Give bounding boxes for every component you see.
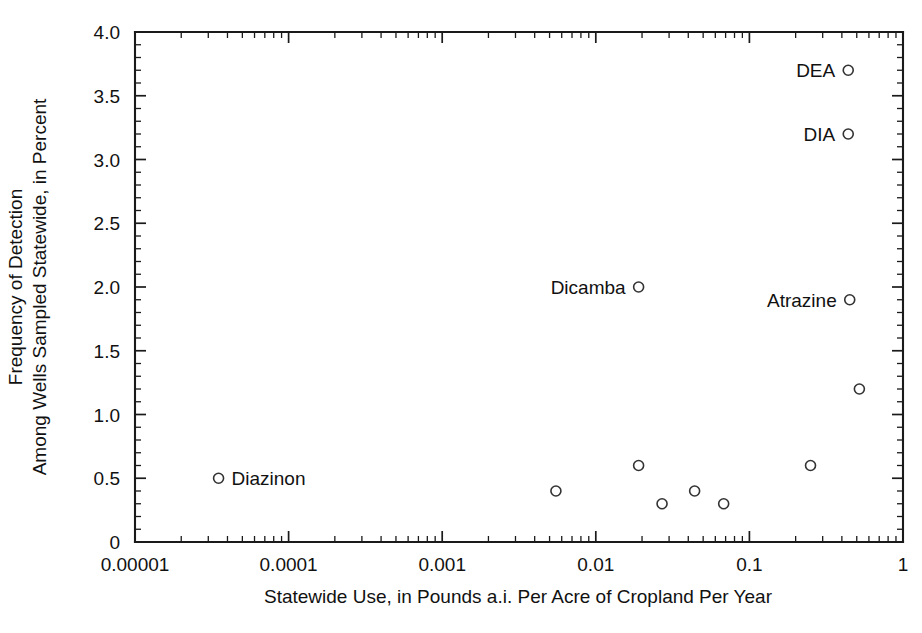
plot-canvas: 0.000010.00010.0010.010.11 00.51.01.52.0…: [0, 0, 922, 633]
data-point-label: Dicamba: [551, 277, 626, 298]
data-point-marker: [854, 384, 864, 394]
y-tick-label: 2.0: [94, 277, 120, 298]
y-tick-label: 4.0: [94, 22, 120, 43]
data-point-markers: [214, 65, 865, 509]
y-tick-label: 1.5: [94, 341, 120, 362]
data-point-marker: [843, 65, 853, 75]
data-point-marker: [845, 295, 855, 305]
data-point-marker: [634, 282, 644, 292]
axis-frame: [135, 32, 903, 542]
data-point-marker: [719, 499, 729, 509]
data-point-marker: [551, 486, 561, 496]
y-axis-title-line-2: Among Wells Sampled Statewide, in Percen…: [29, 98, 50, 475]
y-tick-label: 0: [109, 532, 120, 553]
data-point-labels: DiazinonDicambaDEADIAAtrazine: [232, 60, 837, 489]
x-tick-label: 1: [898, 554, 909, 575]
y-axis-ticks: [135, 32, 903, 542]
data-point-marker: [657, 499, 667, 509]
x-tick-label: 0.01: [577, 554, 614, 575]
x-tick-label: 0.0001: [260, 554, 318, 575]
data-point-marker: [690, 486, 700, 496]
x-axis-tick-labels: 0.000010.00010.0010.010.11: [101, 554, 909, 575]
data-point-label: Diazinon: [232, 468, 306, 489]
y-tick-label: 0.5: [94, 468, 120, 489]
y-tick-label: 2.5: [94, 213, 120, 234]
x-tick-label: 0.00001: [101, 554, 170, 575]
y-tick-label: 1.0: [94, 405, 120, 426]
data-point-marker: [843, 129, 853, 139]
data-point-marker: [214, 473, 224, 483]
data-point-label: Atrazine: [767, 290, 837, 311]
y-tick-label: 3.5: [94, 86, 120, 107]
x-axis-ticks: [135, 32, 903, 542]
x-tick-label: 0.001: [418, 554, 466, 575]
scatter-plot-figure: 0.000010.00010.0010.010.11 00.51.01.52.0…: [0, 0, 922, 633]
data-point-marker: [634, 461, 644, 471]
data-point-label: DIA: [804, 124, 836, 145]
y-axis-title-line-1: Frequency of Detection: [5, 189, 26, 385]
x-tick-label: 0.1: [736, 554, 762, 575]
y-axis-tick-labels: 00.51.01.52.02.53.03.54.0: [94, 22, 120, 553]
data-point-label: DEA: [796, 60, 835, 81]
data-point-marker: [806, 461, 816, 471]
y-tick-label: 3.0: [94, 150, 120, 171]
x-axis-title: Statewide Use, in Pounds a.i. Per Acre o…: [264, 586, 773, 607]
